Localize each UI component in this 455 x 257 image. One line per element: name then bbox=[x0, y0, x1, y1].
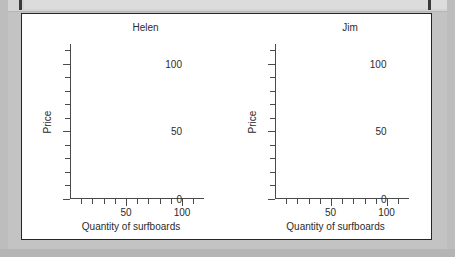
frame-edge-left bbox=[0, 0, 8, 257]
x-tick-50 bbox=[126, 199, 127, 206]
y-tick-100 bbox=[268, 64, 275, 65]
y-tick-60 bbox=[65, 118, 70, 119]
x-tick-20 bbox=[297, 199, 298, 204]
y-tick-label-50: 50 bbox=[171, 126, 182, 137]
y-tick-90 bbox=[65, 77, 70, 78]
x-tick-40 bbox=[115, 199, 116, 204]
x-axis-title-helen: Quantity of surfboards bbox=[82, 221, 180, 232]
chart-helen: Helen bbox=[22, 14, 227, 239]
y-axis-title-jim: Price bbox=[246, 110, 257, 133]
x-tick-10 bbox=[81, 199, 82, 204]
x-axis-title-jim: Quantity of surfboards bbox=[286, 221, 384, 232]
y-axis-title-helen: Price bbox=[42, 110, 53, 133]
y-tick-60 bbox=[270, 118, 275, 119]
x-tick-label-50: 50 bbox=[325, 207, 336, 218]
x-tick-90 bbox=[171, 199, 172, 204]
plot-area-jim: Jim bbox=[275, 44, 397, 199]
y-tick-10 bbox=[65, 185, 70, 186]
x-tick-30 bbox=[309, 199, 310, 204]
frame-corner-mark-right bbox=[428, 0, 431, 10]
charts-container: Helen bbox=[22, 14, 431, 239]
figure-panel: Helen bbox=[21, 13, 432, 240]
chart-title-helen: Helen bbox=[133, 22, 159, 33]
x-tick-100 bbox=[182, 199, 183, 206]
x-tick-30 bbox=[104, 199, 105, 204]
y-axis-line-jim bbox=[275, 44, 276, 199]
page-frame: Helen bbox=[0, 0, 455, 257]
y-tick-100 bbox=[63, 64, 70, 65]
x-tick-60 bbox=[137, 199, 138, 204]
y-tick-20 bbox=[65, 172, 70, 173]
chart-title-jim: Jim bbox=[342, 22, 358, 33]
y-tick-30 bbox=[270, 158, 275, 159]
y-tick-label-100: 100 bbox=[370, 59, 387, 70]
x-tick-80 bbox=[160, 199, 161, 204]
x-tick-20 bbox=[92, 199, 93, 204]
x-tick-80 bbox=[365, 199, 366, 204]
y-tick-label-100: 100 bbox=[165, 59, 182, 70]
y-tick-50 bbox=[63, 131, 70, 132]
y-tick-20 bbox=[270, 172, 275, 173]
x-tick-110 bbox=[398, 199, 399, 204]
x-tick-60 bbox=[342, 199, 343, 204]
frame-top-strip bbox=[8, 0, 447, 12]
y-tick-50 bbox=[268, 131, 275, 132]
y-tick-10 bbox=[270, 185, 275, 186]
y-tick-30 bbox=[65, 158, 70, 159]
x-tick-10 bbox=[286, 199, 287, 204]
x-tick-50 bbox=[331, 199, 332, 206]
x-tick-label-50: 50 bbox=[120, 207, 131, 218]
x-tick-40 bbox=[320, 199, 321, 204]
y-tick-80 bbox=[270, 91, 275, 92]
y-tick-90 bbox=[270, 77, 275, 78]
y-tick-label-50: 50 bbox=[375, 126, 386, 137]
x-tick-110 bbox=[193, 199, 194, 204]
y-axis-line-helen bbox=[70, 44, 71, 199]
y-tick-0 bbox=[63, 199, 70, 200]
plot-area-helen: Helen bbox=[70, 44, 192, 199]
x-tick-70 bbox=[353, 199, 354, 204]
frame-top-strip-inner bbox=[24, 0, 447, 9]
y-tick-70 bbox=[65, 104, 70, 105]
x-tick-100 bbox=[387, 199, 388, 206]
chart-jim: Jim bbox=[227, 14, 432, 239]
y-tick-0 bbox=[268, 199, 275, 200]
figure-page: Helen bbox=[0, 0, 455, 257]
y-tick-40 bbox=[270, 145, 275, 146]
y-tick-40 bbox=[65, 145, 70, 146]
x-tick-label-100: 100 bbox=[174, 207, 191, 218]
x-tick-90 bbox=[376, 199, 377, 204]
frame-edge-bottom bbox=[0, 249, 455, 257]
x-tick-70 bbox=[148, 199, 149, 204]
frame-corner-mark-left bbox=[19, 0, 22, 10]
x-tick-label-100: 100 bbox=[378, 207, 395, 218]
y-tick-80 bbox=[65, 91, 70, 92]
y-tick-70 bbox=[270, 104, 275, 105]
y-tick-110 bbox=[65, 50, 70, 51]
frame-edge-right bbox=[447, 0, 455, 257]
y-tick-110 bbox=[270, 50, 275, 51]
